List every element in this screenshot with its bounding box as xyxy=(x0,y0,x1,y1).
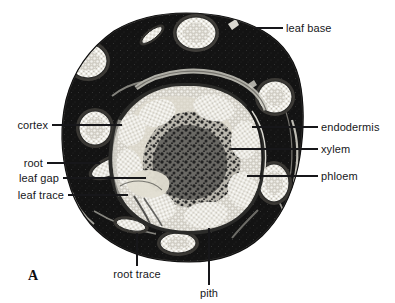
label-leaf-trace: leaf trace xyxy=(0,189,64,201)
label-xylem: xylem xyxy=(321,143,350,155)
panel-letter-a: A xyxy=(28,268,38,284)
figure-plate: leaf base endodermis xylem phloem cortex… xyxy=(0,0,395,303)
label-root-trace: root trace xyxy=(100,268,174,280)
label-root: root xyxy=(0,157,43,169)
label-leaf-gap: leaf gap xyxy=(0,172,59,184)
leaf-base-bundle xyxy=(76,108,114,148)
label-endodermis: endodermis xyxy=(321,121,379,133)
label-leaf-base: leaf base xyxy=(286,22,332,34)
label-phloem: phloem xyxy=(321,170,358,182)
label-cortex: cortex xyxy=(0,119,48,131)
label-pith: pith xyxy=(187,287,231,299)
leaf-base-bundle xyxy=(173,14,219,52)
